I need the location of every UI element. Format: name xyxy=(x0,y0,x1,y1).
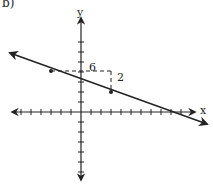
coordinate-graph xyxy=(0,0,213,185)
rise-label: 2 xyxy=(117,71,124,84)
y-axis-label: y xyxy=(77,6,83,19)
graph-line xyxy=(10,53,207,124)
point-right xyxy=(109,90,113,94)
run-label: 6 xyxy=(89,61,96,74)
x-axis-label: x xyxy=(200,104,206,117)
point-left xyxy=(49,69,53,73)
